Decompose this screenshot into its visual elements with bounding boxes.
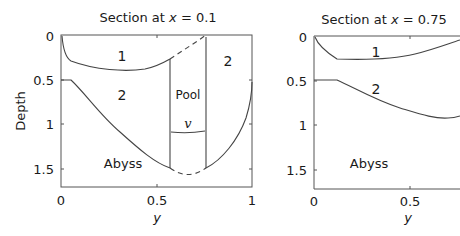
- left-region-2: 2: [118, 87, 127, 103]
- depth-sections-figure: Section at x = 0.1 0 0.5 1 1.5 0 0.5 1 y…: [0, 0, 460, 236]
- right-title: Section at x = 0.75: [321, 12, 446, 27]
- left-panel: Section at x = 0.1 0 0.5 1 1.5 0 0.5 1 y…: [13, 10, 256, 225]
- left-interface-2: [61, 80, 170, 168]
- right-region-1: 1: [372, 44, 381, 60]
- right-abyss-label: Abyss: [350, 156, 389, 171]
- left-interface-1: [62, 36, 170, 70]
- left-v-level: [171, 131, 205, 133]
- left-xtick-0: 0: [57, 193, 65, 208]
- right-xlabel: y: [403, 210, 412, 225]
- right-region-2: 2: [372, 81, 381, 97]
- right-ytick-0: 0: [299, 30, 307, 45]
- right-ytick-1: 1: [299, 118, 307, 133]
- right-interface-2: [314, 80, 460, 118]
- right-curves: [314, 37, 460, 118]
- right-panel: Section at x = 0.75 0 0.5 1 1.5 0 0.5 y …: [286, 12, 460, 225]
- right-ytick-0-5: 0.5: [286, 74, 307, 89]
- left-abyss-label: Abyss: [104, 156, 143, 171]
- left-xlabel: y: [152, 210, 161, 225]
- left-ytick-1-5: 1.5: [33, 162, 54, 177]
- right-interface-1: [315, 37, 460, 59]
- left-pool-bottom-dashed: [170, 168, 206, 175]
- left-region-1: 1: [118, 48, 127, 64]
- left-interface-1-dashed: [170, 35, 206, 59]
- left-xtick-1: 1: [248, 193, 256, 208]
- left-ylabel: Depth: [13, 91, 28, 131]
- left-region-2-right: 2: [224, 53, 233, 69]
- left-title: Section at x = 0.1: [99, 10, 216, 25]
- left-pool-label: Pool: [176, 88, 201, 102]
- left-v-label: v: [184, 116, 192, 131]
- right-ytick-1-5: 1.5: [286, 163, 307, 178]
- left-bottom-right: [206, 82, 252, 168]
- left-ytick-0: 0: [46, 29, 54, 44]
- left-xtick-0-5: 0.5: [147, 193, 168, 208]
- right-xtick-0: 0: [310, 194, 318, 209]
- right-xtick-0-5: 0.5: [400, 194, 421, 209]
- left-ytick-1: 1: [46, 117, 54, 132]
- left-ytick-0-5: 0.5: [33, 73, 54, 88]
